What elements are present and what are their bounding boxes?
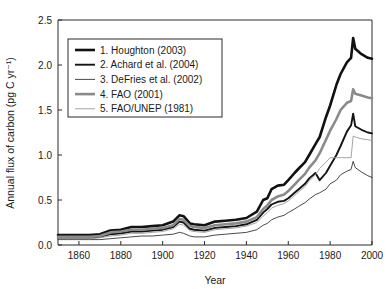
y-tick-label: 2.0 — [38, 60, 52, 71]
x-axis-title: Year — [204, 274, 226, 286]
x-tick-label: 1900 — [152, 250, 175, 261]
legend-label-3: 3. DeFries et al. (2002) — [100, 74, 202, 85]
chart-legend: 1. Houghton (2003)2. Achard et al. (2004… — [68, 39, 222, 117]
x-tick-label: 1920 — [193, 250, 216, 261]
series-line-2 — [58, 114, 372, 238]
y-tick-label: 0.0 — [38, 240, 52, 251]
x-axis-ticks: 18601880190019201940196019802000 — [68, 241, 384, 261]
legend-label-4: 4. FAO (2001) — [100, 89, 163, 100]
legend-label-1: 1. Houghton (2003) — [100, 45, 186, 56]
y-tick-label: 1.5 — [38, 105, 52, 116]
legend-label-5: 5. FAO/UNEP (1981) — [100, 103, 193, 114]
x-tick-label: 1980 — [319, 250, 342, 261]
y-tick-label: 1.0 — [38, 150, 52, 161]
x-tick-label: 1880 — [110, 250, 133, 261]
legend-label-2: 2. Achard et al. (2004) — [100, 59, 198, 70]
y-tick-label: 2.5 — [38, 15, 52, 26]
x-tick-label: 1960 — [277, 250, 300, 261]
figure-container: 0.00.51.01.52.02.5 186018801900192019401… — [0, 0, 391, 289]
x-tick-label: 1940 — [235, 250, 258, 261]
series-line-5 — [58, 136, 372, 239]
x-tick-label: 1860 — [68, 250, 91, 261]
chart-canvas: 0.00.51.01.52.02.5 186018801900192019401… — [0, 0, 391, 289]
y-tick-label: 0.5 — [38, 195, 52, 206]
y-axis-title: Annual flux of carbon (pg C yr⁻¹) — [4, 57, 16, 208]
x-tick-label: 2000 — [361, 250, 384, 261]
